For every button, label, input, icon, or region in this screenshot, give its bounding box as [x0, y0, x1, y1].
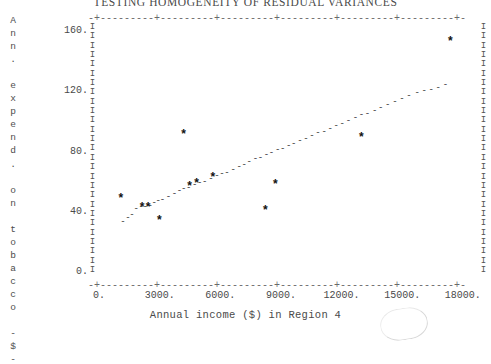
scatter-point: -	[321, 128, 326, 137]
scatter-point: -	[406, 92, 411, 101]
scatter-point-flagged: *	[193, 178, 200, 190]
y-axis-tick-label: 0.	[28, 266, 88, 277]
scatter-point: -	[392, 98, 397, 107]
scatter-point: -	[334, 122, 339, 131]
scatter-point: -	[160, 196, 165, 205]
scatter-point: -	[399, 95, 404, 104]
scatter-point: -	[443, 81, 448, 90]
y-axis-label-char: o	[6, 184, 20, 197]
scatter-point-flagged: *	[145, 202, 152, 214]
y-axis-label-char: n	[6, 40, 20, 53]
scatter-point: -	[421, 87, 426, 96]
scatter-point: -	[166, 193, 171, 202]
scatter-point-flagged: *	[156, 215, 163, 227]
y-axis-label-char: .	[6, 53, 20, 66]
y-axis-label-char: .	[6, 158, 20, 171]
y-axis-label-char: n	[6, 131, 20, 144]
scatter-point: -	[280, 145, 285, 154]
scatter-point-flagged: *	[180, 129, 187, 141]
y-axis-tick-label: 40.	[28, 206, 88, 217]
scatter-point-flagged: *	[262, 205, 269, 217]
scatter-point: -	[346, 117, 351, 126]
scatter-point: -	[327, 125, 332, 134]
scatter-point: -	[224, 169, 229, 178]
scatter-point: -	[247, 158, 252, 167]
y-axis-label-char: c	[6, 275, 20, 288]
scatter-point: -	[372, 107, 377, 116]
y-axis-label-char	[6, 171, 20, 184]
scatter-point: -	[340, 120, 345, 129]
scatter-point: -	[315, 129, 320, 138]
scatter-point: -	[365, 110, 370, 119]
scatter-point: -	[429, 86, 434, 95]
x-axis-tick-label: 6000.	[205, 290, 235, 301]
x-axis-tick-label: 3000.	[145, 290, 175, 301]
y-axis-label-char: b	[6, 249, 20, 262]
y-axis-label-char: x	[6, 92, 20, 105]
y-axis-tick-label: 80.	[28, 146, 88, 157]
y-axis-label-char: e	[6, 118, 20, 131]
x-axis-tick-label: 9000.	[266, 290, 296, 301]
y-axis-label-char	[6, 66, 20, 79]
x-axis-tick-label: 0.	[93, 290, 105, 301]
y-axis-label-char: n	[6, 27, 20, 40]
scatter-point: -	[230, 166, 235, 175]
x-axis-tick-label: 15000.	[384, 290, 420, 301]
scatter-point-flagged: *	[447, 36, 454, 48]
y-axis-label-char: n	[6, 197, 20, 210]
plot-area: -+---------+---------+---------+--------…	[88, 14, 491, 293]
y-axis-tick-label: 120.	[28, 85, 88, 96]
scatter-point: -	[309, 132, 314, 141]
scatter-point: -	[269, 149, 274, 158]
scatter-point: -	[291, 140, 296, 149]
scatter-point-flagged: *	[209, 172, 216, 184]
y-axis-label-char	[6, 210, 20, 223]
y-axis-label-char: o	[6, 236, 20, 249]
x-axis-label: Annual income ($) in Region 4	[0, 309, 491, 321]
y-axis-label-char: p	[6, 105, 20, 118]
y-axis-label-char: e	[6, 79, 20, 92]
scatter-point: -	[258, 154, 263, 163]
y-axis-label-char: -	[6, 327, 20, 340]
y-axis-label-char: -	[6, 353, 20, 364]
scatter-point: -	[202, 178, 207, 187]
x-axis-ticks: 0.3000.6000.9000.12000.15000.18000.	[0, 290, 491, 304]
scatter-point: -	[353, 114, 358, 123]
scatter-point-flagged: *	[117, 193, 124, 205]
y-axis-label-char: t	[6, 223, 20, 236]
y-axis-tick-label: 160.	[28, 25, 88, 36]
scatter-point: -	[303, 135, 308, 144]
scatter-point-flagged: *	[272, 179, 279, 191]
scatter-point: -	[436, 84, 441, 93]
scatter-point: -	[297, 137, 302, 146]
scatter-point: -	[414, 89, 419, 98]
y-axis-label-char: $	[6, 340, 20, 353]
scatter-point: -	[385, 101, 390, 110]
scatter-points: ----------------------------------------…	[88, 14, 491, 293]
y-axis-label-char: A	[6, 14, 20, 27]
scatter-point: -	[359, 111, 364, 120]
scatter-point: -	[378, 104, 383, 113]
y-axis-label-char: a	[6, 262, 20, 275]
x-axis-tick-label: 12000.	[324, 290, 360, 301]
scatter-point-flagged: *	[358, 132, 365, 144]
y-axis-label-char: d	[6, 144, 20, 157]
x-axis-tick-label: 18000.	[445, 290, 481, 301]
